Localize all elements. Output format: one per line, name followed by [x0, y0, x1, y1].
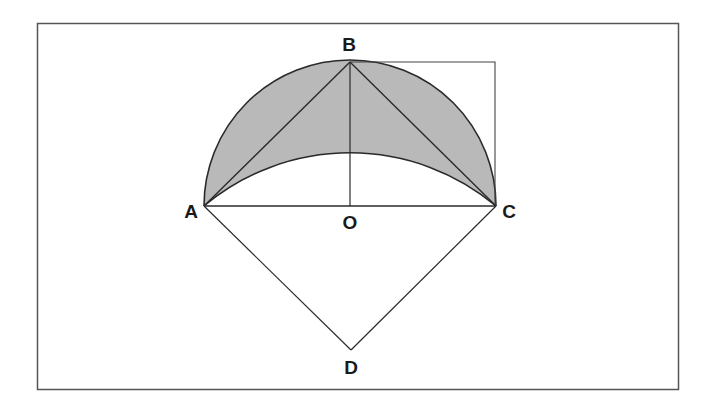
segment-CD	[351, 206, 496, 350]
label-C: C	[502, 201, 516, 222]
label-O: O	[343, 212, 358, 233]
label-B: B	[342, 34, 356, 55]
segment-AD	[204, 206, 351, 350]
label-A: A	[184, 201, 198, 222]
diagram-canvas: B A C O D	[0, 0, 713, 409]
label-D: D	[344, 357, 358, 378]
geometry-figure: B A C O D	[0, 0, 713, 409]
